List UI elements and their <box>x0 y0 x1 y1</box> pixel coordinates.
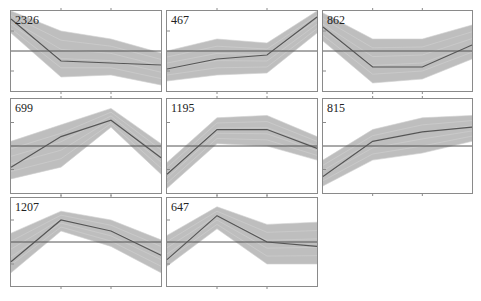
cluster-count-label: 1195 <box>171 101 195 116</box>
cluster-count-label: 862 <box>327 13 345 28</box>
panel-cluster-3: 862 <box>322 10 473 92</box>
panel-cluster-2: 467 <box>166 10 318 92</box>
profile-plot <box>323 99 472 193</box>
profile-plot <box>167 11 317 91</box>
profile-plot <box>11 99 161 193</box>
profile-plot <box>167 198 317 286</box>
panel-cluster-8: 647 <box>166 197 318 287</box>
cluster-count-label: 647 <box>171 200 189 215</box>
panel-cluster-7: 1207 <box>10 197 162 287</box>
profile-plot <box>323 11 472 91</box>
cluster-count-label: 1207 <box>15 200 39 215</box>
panel-cluster-1: 2326 <box>10 10 162 92</box>
profile-band <box>323 115 472 186</box>
cluster-count-label: 699 <box>15 101 33 116</box>
profile-band <box>11 108 161 178</box>
cluster-count-label: 815 <box>327 101 345 116</box>
panel-cluster-5: 1195 <box>166 98 318 194</box>
cluster-count-label: 467 <box>171 13 189 28</box>
profile-band <box>167 115 317 188</box>
panel-cluster-4: 699 <box>10 98 162 194</box>
cluster-count-label: 2326 <box>15 13 39 28</box>
panel-cluster-6: 815 <box>322 98 473 194</box>
